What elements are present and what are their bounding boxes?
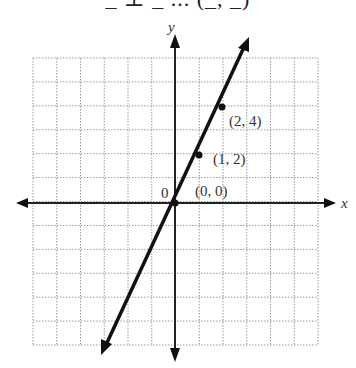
- y-axis-label: y: [166, 19, 175, 35]
- point-2-4: [219, 104, 226, 111]
- x-axis-label: x: [340, 195, 348, 211]
- point-1-2: [196, 152, 203, 159]
- point-label-2-4: (2, 4): [229, 113, 262, 130]
- coordinate-plane: x y 0 (0, 0) (1, 2) (2, 4): [0, 0, 356, 368]
- point-label-1-2: (1, 2): [213, 151, 246, 168]
- point-label-0-0: (0, 0): [195, 183, 228, 200]
- origin-label: 0: [161, 185, 169, 201]
- point-0-0: [172, 200, 179, 207]
